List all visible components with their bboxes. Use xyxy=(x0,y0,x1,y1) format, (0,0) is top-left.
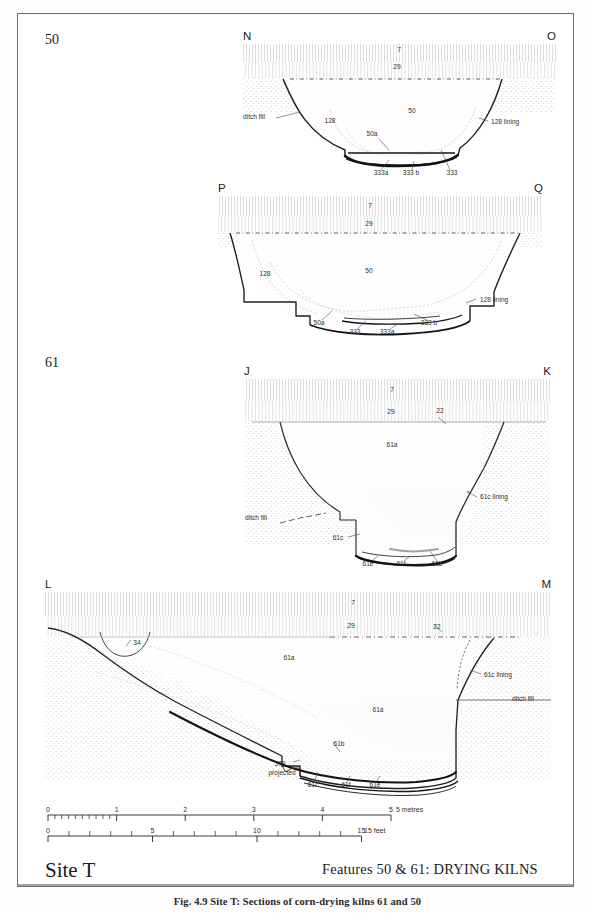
figure-caption: Fig. 4.9 Site T: Sections of corn-drying… xyxy=(0,896,595,915)
section-n-o-label-context-333a: 333a xyxy=(374,169,389,176)
section-n-o-label-context-333b: 333 b xyxy=(403,169,420,176)
section-l-m-label-context-61b: 61b xyxy=(333,740,344,747)
section-j-k-label-context-7: 7 xyxy=(390,386,394,393)
section-j-k-label-context-61b: 61b xyxy=(431,560,442,567)
scale-tick-label: 10 xyxy=(253,827,261,834)
section-p-q-label-context-128: 128 xyxy=(259,270,270,277)
section-j-k-label-context-61f: 61f xyxy=(396,560,405,567)
section-n-o-label-ditch-fill: ditch fill xyxy=(243,113,266,120)
scale-tick-label: 3 xyxy=(252,806,256,813)
section-j-k-label-context-29: 29 xyxy=(387,408,395,415)
scale-tick-label: 4 xyxy=(320,806,324,813)
section-l-m-label-context-379: 379 xyxy=(274,760,285,767)
section-j-k-label-ditch-fill: ditch fill xyxy=(245,514,268,521)
scale-tick-label: 5 xyxy=(389,806,393,813)
features-title: Features 50 & 61: DRYING KILNS xyxy=(322,861,538,877)
section-l-m-label-context-379-projected: projected xyxy=(268,769,295,777)
section-p-q-label-context-333: 333 xyxy=(349,328,360,335)
section-l-m-label-context-22: 22 xyxy=(433,623,441,630)
section-p-q-label-context-50: 50 xyxy=(365,267,373,274)
section-marker-n: N xyxy=(243,30,251,42)
section-l-m-label-context-61f: 61f xyxy=(341,781,350,788)
section-l-m-label-context-7: 7 xyxy=(351,599,355,606)
section-l-m-label-context-34: 34 xyxy=(133,639,141,646)
section-j-k-label-context-61c: 61c xyxy=(333,534,344,541)
section-marker-o: O xyxy=(547,30,556,42)
section-j-k-label-context-61a: 61a xyxy=(386,441,397,448)
section-marker-p: P xyxy=(218,182,226,194)
section-l-m-graphic xyxy=(45,592,551,796)
section-l-m-label-context-61e: 61e xyxy=(369,781,380,788)
scale-tick-label: 0 xyxy=(46,827,50,834)
section-p-q-label-context-333b: 333 b xyxy=(421,319,438,326)
row-label-50: 50 xyxy=(45,32,59,47)
section-j-k-label-context-22: 22 xyxy=(436,407,444,414)
section-p-q-label-context-29: 29 xyxy=(365,220,373,227)
section-drawing: 0123455 metres05101515 feet NO72950ditch… xyxy=(0,0,595,895)
scale-unit-label: 5 metres xyxy=(396,806,424,813)
section-marker-j: J xyxy=(244,365,250,377)
section-marker-k: K xyxy=(543,365,551,377)
section-j-k-label-context-61e: 61e xyxy=(362,560,373,567)
section-marker-q: Q xyxy=(534,182,543,194)
section-j-k-label-context-61c-lining: 61c lining xyxy=(480,493,508,501)
section-p-q-graphic xyxy=(218,196,543,335)
section-marker-m: M xyxy=(541,578,551,590)
section-n-o-label-context-333: 333 xyxy=(446,169,457,176)
section-n-o-label-context-128-lining: 128 lining xyxy=(491,118,520,126)
section-n-o-label-context-128: 128 xyxy=(324,117,335,124)
scale-tick-label: 0 xyxy=(46,806,50,813)
section-l-m-label-ditch-fill: ditch fill xyxy=(512,695,535,702)
section-n-o-label-context-29: 29 xyxy=(393,63,401,70)
section-p-q-label-context-128-lining: 128 lining xyxy=(480,296,509,304)
section-marker-l: L xyxy=(45,578,52,590)
section-l-m-label-context-61a-lower: 61a xyxy=(372,706,383,713)
scale-bars: 0123455 metres05101515 feet xyxy=(46,806,424,842)
site-title: Site T xyxy=(45,858,96,882)
scale-tick-label: 5 xyxy=(151,827,155,834)
section-l-m-label-context-61c: 61c xyxy=(308,781,319,788)
scale-bar-metres: 0123455 metres xyxy=(46,806,424,821)
row-label-61: 61 xyxy=(45,355,59,370)
section-p-q-label-context-7: 7 xyxy=(368,202,372,209)
section-l-m-label-context-29: 29 xyxy=(347,622,355,629)
scale-unit-label: 15 feet xyxy=(364,827,385,834)
scale-tick-label: 1 xyxy=(115,806,119,813)
section-n-o-label-context-50: 50 xyxy=(408,107,416,114)
section-n-o-label-context-50a: 50a xyxy=(366,130,377,137)
section-l-m-label-context-61c-lining: 61c lining xyxy=(484,671,512,679)
section-j-k-graphic xyxy=(244,379,551,566)
scale-tick-label: 2 xyxy=(183,806,187,813)
section-p-q-label-context-333a: 333a xyxy=(380,328,395,335)
section-n-o-label-context-7: 7 xyxy=(397,46,401,53)
figure-page: 0123455 metres05101515 feet NO72950ditch… xyxy=(0,0,595,915)
section-l-m-label-context-61a-upper: 61a xyxy=(283,654,294,661)
scale-bar-feet: 05101515 feet xyxy=(46,827,385,842)
section-p-q-label-context-50a: 50a xyxy=(313,319,324,326)
